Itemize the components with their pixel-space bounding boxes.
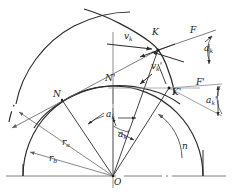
label-angle-ak-prime-center: ak' xyxy=(118,130,130,139)
force-arrow-F-lower-at-K xyxy=(152,52,184,62)
addendum-circle-arc-dashed xyxy=(9,105,14,122)
label-velocity-vk: vk xyxy=(124,32,133,41)
point-marker-K-prime xyxy=(168,87,171,90)
label-angle-ak-prime-right-subscript: k xyxy=(211,99,215,106)
label-angle-ak-prime-right-mark: ' xyxy=(215,95,217,105)
label-point-N: N xyxy=(53,90,61,99)
point-marker-N xyxy=(61,99,63,101)
label-velocity-vk-subscript: k xyxy=(129,35,133,42)
label-angle-ak-top-subscript: k xyxy=(209,47,213,54)
diagram-canvas xyxy=(0,0,232,196)
label-velocity-vk-prime-subscript: k xyxy=(156,65,160,72)
label-radius-rb: rb xyxy=(49,154,57,163)
involute-curve-outer xyxy=(84,9,175,94)
angle-arrow-ak xyxy=(88,113,104,124)
label-angle-ak-center-subscript: k xyxy=(111,113,115,120)
label-center-O: O xyxy=(114,178,121,187)
label-rotation-n: n xyxy=(182,142,188,151)
involute-gear-diagram: K K' N N' O F F' vk vk' ak ak' ak ak' ra… xyxy=(0,0,232,196)
label-velocity-vk-prime-mark: ' xyxy=(160,61,162,71)
label-angle-ak-top: ak xyxy=(204,44,213,53)
label-point-N-prime: N' xyxy=(105,74,115,83)
label-radius-ra-subscript: a xyxy=(66,141,70,148)
label-angle-ak-center: ak xyxy=(106,110,115,119)
velocity-vector-vk xyxy=(107,44,152,49)
rotation-arrow-n xyxy=(158,114,182,158)
label-force-F-prime: F' xyxy=(196,78,205,87)
dimension-line-rb xyxy=(30,152,113,176)
label-point-K: K xyxy=(152,28,159,37)
label-radius-rb-subscript: b xyxy=(53,157,57,164)
label-angle-ak-prime-center-subscript: k xyxy=(123,133,127,140)
label-velocity-vk-prime: vk' xyxy=(151,62,162,71)
label-point-K-prime: K' xyxy=(172,88,181,97)
label-radius-ra: ra xyxy=(62,138,70,147)
label-angle-ak-prime-right: ak' xyxy=(206,96,218,105)
label-force-F: F xyxy=(190,26,196,35)
point-marker-K xyxy=(156,48,159,51)
angle-arrow-ak-top xyxy=(205,36,212,42)
label-angle-ak-prime-center-mark: ' xyxy=(127,129,129,139)
